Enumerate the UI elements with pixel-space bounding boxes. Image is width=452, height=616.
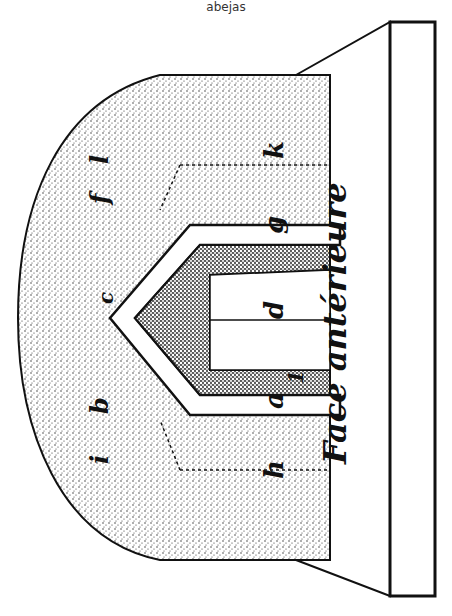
- label-1: 1: [284, 370, 308, 384]
- engraving-figure: h a 1 d g k i b c f l Face antérieure Fi…: [0, 0, 452, 616]
- label-k: k: [259, 141, 289, 159]
- label-i: i: [85, 455, 114, 464]
- label-a: a: [259, 392, 289, 409]
- face-label: Face antérieure: [316, 182, 354, 465]
- label-d: d: [259, 301, 289, 319]
- label-h: h: [259, 460, 289, 479]
- label-g: g: [259, 216, 289, 234]
- label-c: c: [94, 292, 118, 304]
- label-l: l: [85, 155, 114, 164]
- label-b: b: [85, 397, 114, 414]
